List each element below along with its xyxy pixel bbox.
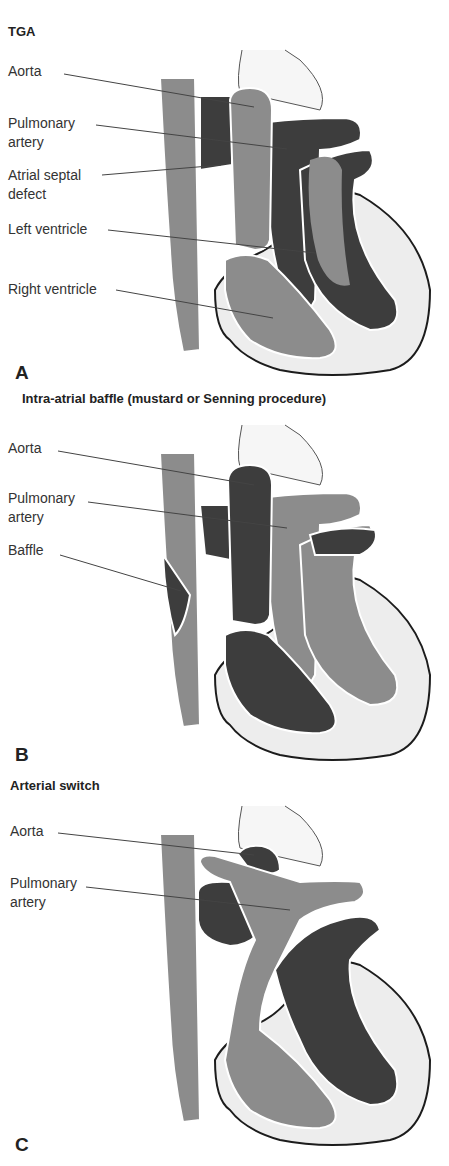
panel-b-intra-atrial-baffle: Intra-atrial baffle (mustard or Senning … <box>0 385 449 770</box>
heart-diagram-tga <box>0 0 449 385</box>
panel-a-tga: TGA Aorta Pulmonary artery Atrial septal… <box>0 0 449 385</box>
heart-diagram-baffle <box>0 385 449 770</box>
heart-diagram-arterial-switch <box>0 770 449 1166</box>
panel-c-arterial-switch: Arterial switch Aorta Pulmonary artery C <box>0 770 449 1166</box>
